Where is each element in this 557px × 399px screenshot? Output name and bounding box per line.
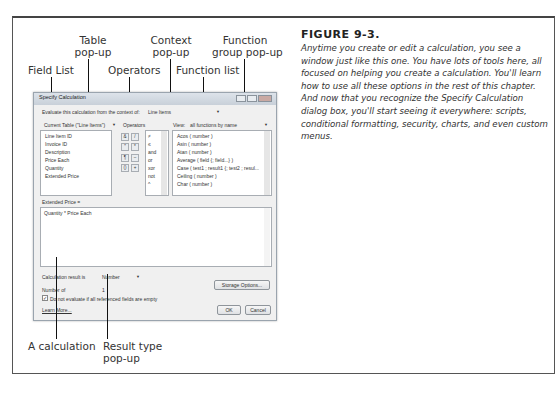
operator-button-divide[interactable]: / xyxy=(131,133,139,141)
callout-text: Result type xyxy=(103,340,162,352)
callout-operators: Operators xyxy=(108,64,160,76)
table-value: Current Table ("Line Items") xyxy=(44,122,105,128)
formula-text: Quantity * Price Each xyxy=(44,210,92,216)
operator-scrollbar[interactable] xyxy=(161,131,167,195)
dont-evaluate-label: Do not evaluate if all referenced fields… xyxy=(50,296,157,302)
context-value: Line Items xyxy=(148,109,171,115)
callout-context-popup: Context pop-up xyxy=(146,34,196,58)
function-group-popup[interactable]: all functions by name ▼ xyxy=(186,120,272,129)
callout-text: Function xyxy=(212,34,278,46)
callout-text: Context xyxy=(146,34,196,46)
result-label: Calculation result is xyxy=(42,274,85,280)
minimize-icon[interactable] xyxy=(236,95,246,102)
chevron-down-icon: ▼ xyxy=(136,274,140,279)
function-item[interactable]: Case ( test1 ; result1 {; test2 ; resul.… xyxy=(173,164,271,172)
operator-button-parens[interactable]: () xyxy=(121,164,129,172)
function-list[interactable]: Acos ( number ) Asin ( number ) Atan ( n… xyxy=(172,130,272,196)
leader-line xyxy=(107,274,108,339)
callout-field-list: Field List xyxy=(28,64,74,76)
context-label: Evaluate this calculation from the conte… xyxy=(42,109,140,115)
formula-editor[interactable]: Quantity * Price Each xyxy=(40,207,272,267)
callout-function-list: Function list xyxy=(176,64,239,76)
operator-button-quote[interactable]: ″ xyxy=(121,143,129,151)
field-item[interactable]: Extended Price xyxy=(41,172,111,180)
operator-button-subtract[interactable]: – xyxy=(131,154,139,162)
dont-evaluate-checkbox[interactable]: ✓ xyxy=(42,295,48,301)
context-popup[interactable]: Line Items ▼ xyxy=(144,107,224,116)
calc-field-label: Extended Price = xyxy=(42,199,80,205)
maximize-icon[interactable] xyxy=(247,95,257,102)
window-controls xyxy=(236,95,272,102)
field-item[interactable]: Invoice ID xyxy=(41,140,111,148)
field-item[interactable]: Line Item ID xyxy=(41,132,111,140)
result-type-popup[interactable]: Number ▼ xyxy=(98,272,144,281)
callout-table-popup: Table pop-up xyxy=(66,34,120,58)
callout-text: pop-up xyxy=(66,46,120,58)
dialog-titlebar: Specify Calculation xyxy=(34,93,276,105)
dialog-title: Specify Calculation xyxy=(39,94,86,100)
field-item[interactable]: Description xyxy=(41,148,111,156)
callout-a-calculation: A calculation xyxy=(28,340,96,352)
callout-text: Table xyxy=(66,34,120,46)
cancel-button[interactable]: Cancel xyxy=(245,305,271,315)
repetitions-value: 1 xyxy=(102,287,105,293)
field-item[interactable]: Price Each xyxy=(41,156,111,164)
chevron-down-icon: ▼ xyxy=(264,122,268,127)
operator-button-multiply[interactable]: * xyxy=(131,143,139,151)
specify-calculation-dialog: Specify Calculation Evaluate this calcul… xyxy=(33,92,277,321)
storage-options-button[interactable]: Storage Options... xyxy=(214,280,270,290)
operator-button-pilcrow[interactable]: ¶ xyxy=(121,154,129,162)
view-value: all functions by name xyxy=(190,122,237,128)
leader-line xyxy=(56,257,57,339)
function-item[interactable]: Char ( number ) xyxy=(173,180,271,188)
function-item[interactable]: Average ( field {; field...} ) xyxy=(173,156,271,164)
ok-button[interactable]: OK xyxy=(217,305,241,315)
callout-result-type-popup: Result type pop-up xyxy=(103,340,162,364)
operator-button-add[interactable]: + xyxy=(131,164,139,172)
close-icon[interactable] xyxy=(258,95,272,102)
callout-function-group-popup: Function group pop-up xyxy=(212,34,278,58)
result-value: Number xyxy=(102,274,120,280)
view-label: View: xyxy=(173,122,185,128)
callout-text: group pop-up xyxy=(212,46,278,58)
callout-text: pop-up xyxy=(103,352,162,364)
chevron-down-icon: ▼ xyxy=(112,122,116,127)
repetitions-label: Number of xyxy=(42,287,65,293)
function-item[interactable]: Asin ( number ) xyxy=(173,140,271,148)
chevron-down-icon: ▼ xyxy=(216,109,220,114)
field-item[interactable]: Quantity xyxy=(41,164,111,172)
callout-text: pop-up xyxy=(146,46,196,58)
field-list[interactable]: Line Item ID Invoice ID Description Pric… xyxy=(40,130,112,196)
function-scrollbar[interactable] xyxy=(264,131,270,195)
repetitions-input[interactable]: 1 xyxy=(98,285,114,294)
figure-caption: Anytime you create or edit a calculation… xyxy=(301,42,551,143)
function-item[interactable]: Acos ( number ) xyxy=(173,132,271,140)
figure-label: FIGURE 9-3. xyxy=(301,28,380,41)
operators-label: Operators xyxy=(123,122,145,128)
comparison-operator-list[interactable]: ≠ ≤ and or xor not ^ xyxy=(145,130,169,196)
operator-button-concat[interactable]: & xyxy=(121,133,129,141)
function-item[interactable]: Ceiling ( number ) xyxy=(173,172,271,180)
function-item[interactable]: Atan ( number ) xyxy=(173,148,271,156)
table-popup[interactable]: Current Table ("Line Items") ▼ xyxy=(40,120,120,129)
formula-scrollbar[interactable] xyxy=(264,208,270,266)
